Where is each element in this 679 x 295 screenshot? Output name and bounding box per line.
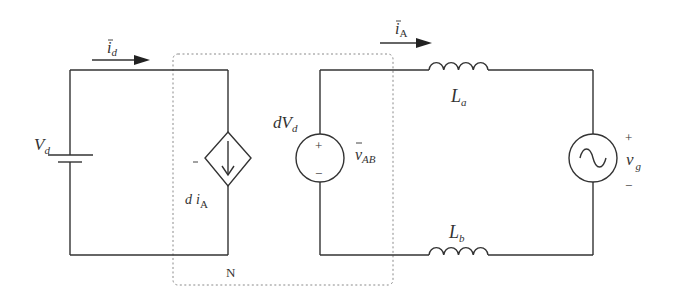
dependent-voltage-label: dVd — [273, 113, 298, 134]
output-voltage-label: vAB — [355, 146, 376, 165]
inductor-b-label: Lb — [448, 222, 465, 244]
dependent-current-label: diA — [185, 192, 208, 210]
inductor-a-icon — [429, 63, 488, 70]
input-current-label: id — [107, 39, 117, 58]
voltage-source-plus: + — [315, 138, 322, 153]
circuit-diagram: N Vd id diA — [0, 0, 679, 295]
inductor-b-icon — [429, 248, 488, 255]
battery-icon — [48, 155, 93, 162]
inductor-a-label: La — [450, 86, 467, 108]
dependent-current-source-icon — [205, 132, 251, 186]
dc-source-label: Vd — [34, 135, 50, 156]
network-box — [173, 54, 393, 285]
output-current-arrow — [380, 38, 432, 48]
output-current-label: iA — [395, 20, 407, 39]
input-current-arrow — [92, 55, 150, 65]
ac-source-plus: + — [625, 130, 632, 145]
ac-source-icon — [569, 134, 617, 182]
ac-source-label: vg — [626, 150, 642, 172]
voltage-source-minus: − — [315, 166, 322, 181]
network-label: N — [226, 265, 236, 280]
ac-source-minus: − — [625, 178, 632, 193]
left-loop — [70, 70, 228, 255]
